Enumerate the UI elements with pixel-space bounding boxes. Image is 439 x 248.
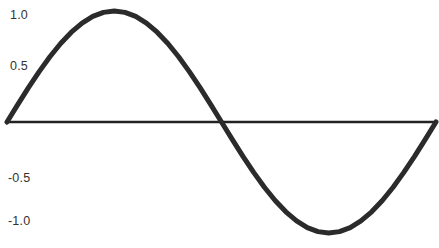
y-tick-label-0-5: 0.5 <box>10 60 28 73</box>
y-tick-label-neg-1-0: -1.0 <box>8 215 30 228</box>
y-tick-label-1: 1.0 <box>10 9 28 22</box>
y-tick-label-neg-0-5: -0.5 <box>8 172 30 185</box>
sine-wave-chart: 1.0 0.5 -0.5 -1.0 <box>0 0 439 248</box>
plot-area <box>0 0 439 248</box>
